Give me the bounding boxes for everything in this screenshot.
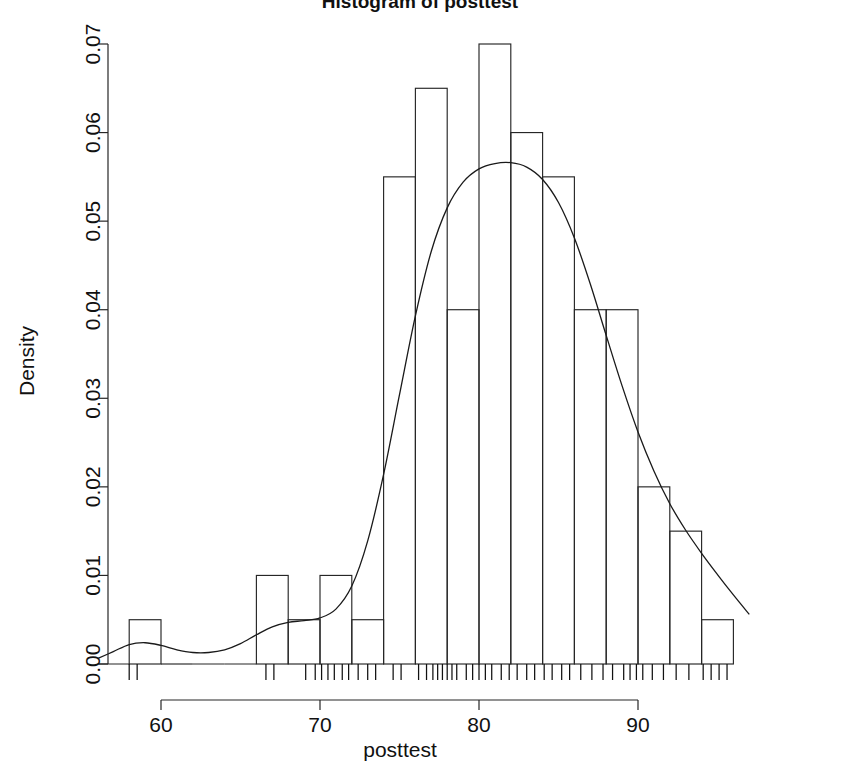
- y-axis-tick-label: 0.04: [81, 289, 104, 330]
- y-axis-tick-label: 0.05: [81, 201, 104, 242]
- x-axis-tick-label: 60: [149, 713, 172, 736]
- chart-background: [0, 0, 841, 783]
- y-axis-title: Density: [15, 325, 38, 396]
- x-axis-tick-label: 70: [308, 713, 331, 736]
- chart-title: Histogram of posttest: [322, 0, 519, 12]
- y-axis-tick-label: 0.06: [81, 112, 104, 153]
- histogram-plot-panel: Histogram of posttest 0.000.010.020.030.…: [0, 0, 841, 783]
- x-axis-tick-label: 90: [626, 713, 649, 736]
- y-axis-tick-label: 0.01: [81, 555, 104, 596]
- x-axis-title: posttest: [363, 738, 437, 761]
- x-axis-tick-label: 80: [467, 713, 490, 736]
- y-axis-tick-label: 0.00: [81, 644, 104, 685]
- y-axis-tick-label: 0.07: [81, 24, 104, 65]
- y-axis-tick-label: 0.02: [81, 466, 104, 507]
- histogram-density-chart: Histogram of posttest 0.000.010.020.030.…: [0, 0, 841, 783]
- y-axis-tick-label: 0.03: [81, 378, 104, 419]
